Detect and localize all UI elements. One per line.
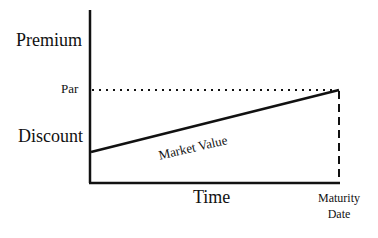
maturity-label-line2: Date [311,206,367,222]
maturity-date-label: Maturity Date [311,190,367,222]
maturity-label-line1: Maturity [311,190,367,206]
time-axis-label: Time [193,187,230,208]
discount-label: Discount [18,126,83,147]
par-label: Par [61,81,78,97]
premium-label: Premium [16,30,82,51]
